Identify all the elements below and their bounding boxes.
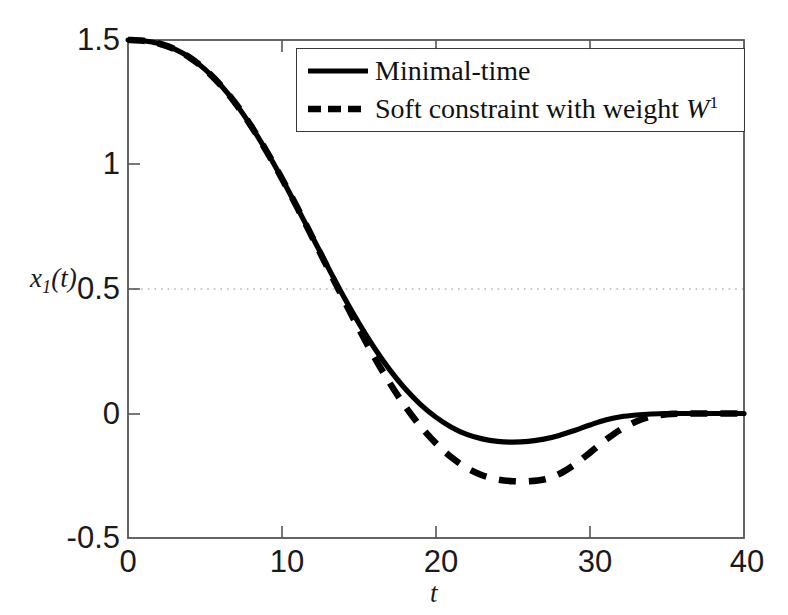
legend-label-soft-symbol: W [686, 94, 709, 125]
legend-label-minimal-time: Minimal-time [375, 57, 531, 85]
legend-label-soft-superscript: 1 [709, 93, 718, 112]
legend-item-minimal-time: Minimal-time [307, 52, 531, 90]
legend-swatch-solid [307, 66, 369, 76]
legend-item-soft-constraint: Soft constraint with weight W1 [307, 90, 718, 128]
legend-label-soft-constraint: Soft constraint with weight W1 [375, 94, 718, 123]
legend: Minimal-time Soft constraint with weight… [296, 48, 745, 132]
legend-label-soft-prefix: Soft constraint with weight [375, 94, 686, 125]
legend-swatch-dashed [307, 104, 369, 114]
figure-root: 1.5 1 0.5 0 -0.5 0 10 20 30 40 x1(t) t [0, 0, 788, 615]
